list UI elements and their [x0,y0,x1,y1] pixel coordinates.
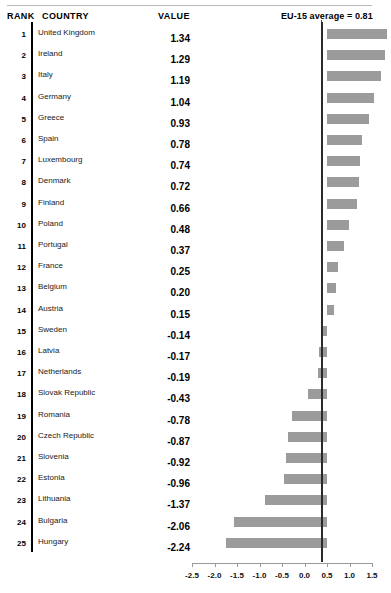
row-bar [327,29,387,39]
row-country: Netherlands [38,367,81,376]
x-axis-tick [350,563,351,567]
row-bar [327,305,334,315]
row-country: Bulgaria [38,516,67,525]
row-bar [327,93,374,103]
row-country: Ireland [38,49,62,58]
header-rule [7,5,372,6]
row-bar [327,241,344,251]
row-rank: 15 [0,327,26,336]
row-bar [327,177,359,187]
x-axis-tick [372,563,373,567]
row-value: -0.96 [120,478,190,489]
row-value: -0.17 [120,351,190,362]
row-rank: 7 [0,157,26,166]
column-header-rank: RANK [7,11,35,21]
row-country: Portugal [38,240,68,249]
row-rank: 12 [0,263,26,272]
row-bar [327,220,349,230]
row-country: Italy [38,70,53,79]
row-country: Poland [38,219,63,228]
row-bar [327,283,336,293]
row-value: 0.66 [120,203,190,214]
row-bar [327,135,362,145]
x-axis-tick [260,563,261,567]
row-bar [318,368,327,378]
row-value: 1.04 [120,97,190,108]
reference-line-label: EU-15 average = 0.81 [281,11,373,21]
row-bar [327,50,385,60]
row-country: Estonia [38,473,65,482]
row-bar [327,71,381,81]
row-value: 1.19 [120,75,190,86]
x-axis-tick [305,563,306,567]
row-rank: 16 [0,348,26,357]
row-country: Finland [38,198,64,207]
column-header-value: VALUE [158,11,190,21]
row-bar [327,156,360,166]
row-country: Slovak Republic [38,388,95,397]
row-country: Romania [38,410,70,419]
row-country: Lithuania [38,494,70,503]
row-rank: 10 [0,221,26,230]
row-rank: 1 [0,30,26,39]
row-bar [327,262,338,272]
row-value: 0.20 [120,287,190,298]
x-axis-tick-label: 1.5 [352,571,391,580]
row-rank: 9 [0,200,26,209]
row-rank: 3 [0,72,26,81]
row-country: Belgium [38,282,67,291]
row-rank: 17 [0,369,26,378]
row-bar [327,114,369,124]
row-value: 0.48 [120,224,190,235]
column-header-country: COUNTRY [42,11,89,21]
row-rank: 4 [0,94,26,103]
row-rank: 11 [0,242,26,251]
row-rank: 24 [0,518,26,527]
row-country: Denmark [38,176,70,185]
row-rank: 25 [0,539,26,548]
row-country: Latvia [38,346,59,355]
row-country: Greece [38,113,64,122]
row-rank: 23 [0,496,26,505]
row-rank: 20 [0,433,26,442]
row-value: -1.37 [120,499,190,510]
x-axis-tick [192,563,193,567]
row-country: Germany [38,92,71,101]
row-country: Austria [38,304,63,313]
row-country: United Kingdom [38,28,95,37]
row-country: Czech Republic [38,431,94,440]
row-rank: 13 [0,284,26,293]
row-rank: 14 [0,306,26,315]
row-country: Hungary [38,537,68,546]
row-value: 0.25 [120,266,190,277]
row-rank: 22 [0,475,26,484]
row-value: 0.72 [120,181,190,192]
row-rank: 19 [0,412,26,421]
row-rank: 21 [0,454,26,463]
row-value: -2.24 [120,542,190,553]
row-value: 0.93 [120,118,190,129]
zero-reference-line [321,22,323,562]
x-axis-tick [215,563,216,567]
row-bar [308,389,327,399]
x-axis-tick [237,563,238,567]
row-value: -0.43 [120,393,190,404]
row-bar [234,517,327,527]
row-country: Spain [38,134,58,143]
row-value: 1.29 [120,54,190,65]
row-value: -0.19 [120,372,190,383]
x-axis-tick [327,563,328,567]
row-value: -0.14 [120,330,190,341]
row-country: France [38,261,63,270]
row-value: -0.78 [120,415,190,426]
row-country: Sweden [38,325,67,334]
row-value: -0.87 [120,436,190,447]
row-bar [265,495,327,505]
row-country: Luxembourg [38,155,82,164]
x-axis-tick [282,563,283,567]
row-bar [226,538,327,548]
row-value: 0.15 [120,309,190,320]
row-value: 0.74 [120,160,190,171]
row-rank: 8 [0,178,26,187]
